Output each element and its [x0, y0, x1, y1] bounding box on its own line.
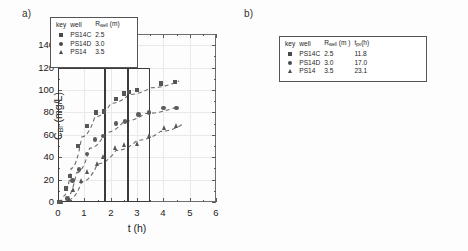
legend-marker-tri	[54, 48, 68, 56]
data-point-PS14	[135, 141, 139, 146]
data-point-PS14	[174, 123, 178, 128]
legend-well-name: PS14	[297, 67, 322, 75]
data-point-PS14D	[114, 121, 119, 126]
panel-a-legend: keywellRwell (m)PS14C2.5PS14D3.0PS143.5	[50, 17, 138, 68]
legend-tpv-value: 11.8	[352, 50, 371, 58]
data-point-PS14C	[122, 91, 126, 95]
data-point-PS14C	[159, 81, 163, 85]
legend-marker-circle	[283, 59, 297, 67]
square-marker-icon	[288, 52, 292, 56]
legend-header-key: key	[54, 20, 68, 31]
legend-marker-tri	[283, 67, 297, 75]
panel-b: b) CBr(mg/L) t (h) keywellRwell (m )tpv(…	[234, 0, 468, 251]
legend-header-well: well	[297, 39, 322, 50]
data-point-PS14C	[114, 97, 118, 101]
data-point-PS14	[79, 178, 83, 183]
figure-root: a) CBr (mg/L) t (h) keywellRwell (m)PS14…	[0, 0, 468, 251]
legend-row: PS14D3.0	[54, 40, 122, 48]
legend-well-name: PS14C	[68, 31, 93, 39]
data-point-PS14D	[174, 106, 179, 111]
square-marker-icon	[59, 33, 63, 37]
data-point-PS14	[85, 169, 89, 174]
data-point-PS14	[71, 187, 75, 192]
panel-a: a) CBr (mg/L) t (h) keywellRwell (m)PS14…	[0, 0, 234, 251]
legend-well-name: PS14C	[297, 50, 322, 58]
legend-header-well: well	[68, 20, 93, 31]
data-point-PS14C	[76, 144, 80, 148]
data-point-PS14	[122, 142, 126, 147]
legend-header-rwell: Rwell (m)	[93, 20, 121, 31]
legend-header-key: key	[283, 39, 297, 50]
data-point-PS14	[67, 196, 71, 201]
legend-rwell-value: 2.5	[322, 50, 352, 58]
circle-marker-icon	[59, 42, 63, 46]
legend-header-tpv: tpv(h)	[352, 39, 371, 50]
data-point-PS14D	[161, 106, 166, 111]
data-point-PS14	[101, 154, 105, 159]
panel-b-legend: keywellRwell (m )tpv(h)PS14C2.511.8PS14D…	[279, 36, 427, 82]
data-point-PS14D	[70, 178, 75, 183]
data-point-PS14D	[123, 119, 128, 124]
legend-tpv-value: 23.1	[352, 67, 371, 75]
legend-tpv-value: 17.0	[352, 59, 371, 67]
data-point-PS14D	[136, 112, 141, 117]
data-point-PS14C	[64, 186, 68, 190]
data-point-PS14	[95, 161, 99, 166]
circle-marker-icon	[288, 61, 292, 65]
data-point-PS14C	[102, 109, 106, 113]
tri-marker-icon	[288, 69, 292, 73]
data-point-PS14C	[94, 110, 98, 114]
legend-rwell-value: 3.0	[93, 40, 121, 48]
legend-header-rwell: Rwell (m )	[322, 39, 352, 50]
data-point-PS14C	[85, 124, 89, 128]
data-point-PS14D	[147, 110, 152, 115]
data-point-PS14	[147, 133, 151, 138]
legend-marker-circle	[54, 40, 68, 48]
legend-row: PS14C2.511.8	[283, 50, 371, 58]
legend-well-name: PS14D	[68, 40, 93, 48]
overlay-rectangle	[105, 68, 127, 202]
data-point-PS14C	[127, 90, 131, 94]
data-point-PS14	[162, 125, 166, 130]
legend-marker-square	[283, 50, 297, 58]
data-point-PS14	[113, 145, 117, 150]
legend-rwell-value: 3.0	[322, 59, 352, 67]
legend-rwell-value: 2.5	[93, 31, 121, 39]
legend-rwell-value: 3.5	[322, 67, 352, 75]
data-point-PS14C	[173, 80, 177, 84]
legend-row: PS14D3.017.0	[283, 59, 371, 67]
legend-row: PS143.5	[54, 48, 122, 56]
legend-row: PS143.523.1	[283, 67, 371, 75]
tri-marker-icon	[59, 50, 63, 54]
legend-row: PS14C2.5	[54, 31, 122, 39]
legend-well-name: PS14D	[297, 59, 322, 67]
legend-well-name: PS14	[68, 48, 93, 56]
data-point-PS14D	[93, 137, 98, 142]
data-point-PS14C	[135, 88, 139, 92]
legend-rwell-value: 3.5	[93, 48, 121, 56]
data-point-PS14	[59, 199, 63, 204]
legend-marker-square	[54, 31, 68, 39]
